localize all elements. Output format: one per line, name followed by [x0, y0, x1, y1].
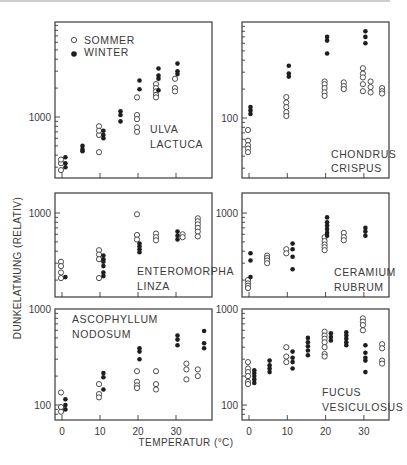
winter-point: [137, 78, 142, 83]
x-tick-label: 20: [320, 426, 332, 437]
winter-point: [175, 72, 180, 77]
panel-species-label: LINZA: [137, 280, 170, 292]
winter-point: [363, 29, 368, 34]
winter-point: [325, 233, 330, 238]
winter-point: [63, 407, 68, 412]
winter-point: [363, 351, 368, 356]
sommer-point: [284, 251, 289, 256]
x-tick-label: 10: [282, 426, 294, 437]
y-axis-label: DUNKELATMUNG (RELATIV): [12, 197, 23, 339]
winter-point: [363, 41, 368, 46]
sommer-point: [368, 79, 373, 84]
sommer-point: [153, 369, 158, 374]
winter-point: [101, 128, 106, 133]
winter-point: [267, 358, 272, 363]
winter-point: [63, 155, 68, 160]
winter-point: [325, 38, 330, 43]
sommer-point: [360, 75, 365, 80]
panel-species-label: ULVA: [150, 123, 178, 135]
sommer-point: [134, 237, 139, 242]
winter-point: [290, 356, 295, 361]
winter-point: [202, 329, 207, 334]
sommer-point: [265, 261, 270, 266]
legend-filled-marker: [71, 51, 77, 57]
winter-point: [175, 61, 180, 66]
winter-point: [63, 165, 68, 170]
winter-point: [290, 360, 295, 365]
legend: SOMMER WINTER: [71, 34, 135, 59]
winter-point: [101, 387, 106, 392]
winter-point: [363, 229, 368, 234]
sommer-point: [284, 95, 289, 100]
sommer-point: [58, 264, 63, 269]
panel-species-label: CRISPUS: [331, 162, 382, 174]
x-tick-label: 30: [170, 426, 182, 437]
winter-point: [363, 370, 368, 375]
legend-sommer-label: SOMMER: [84, 34, 135, 46]
sommer-point: [58, 157, 63, 162]
sommer-point: [153, 95, 158, 100]
sommer-point: [322, 354, 327, 359]
sommer-point: [58, 409, 63, 414]
winter-point: [175, 343, 180, 348]
winter-point: [202, 346, 207, 351]
sommer-point: [360, 328, 365, 333]
winter-point: [63, 403, 68, 408]
winter-point: [287, 74, 292, 79]
sommer-point: [322, 345, 327, 350]
winter-point: [248, 112, 253, 117]
winter-point: [363, 343, 368, 348]
winter-point: [101, 371, 106, 376]
winter-point: [248, 258, 253, 263]
sommer-point: [96, 150, 101, 155]
winter-point: [137, 357, 142, 362]
panel-species-label: LACTUCA: [150, 138, 203, 150]
winter-point: [287, 64, 292, 69]
winter-point: [325, 51, 330, 56]
y-tick-label: 100: [34, 400, 51, 411]
sommer-point: [380, 91, 385, 96]
panel-chondrus: 100CHONDRUSCRISPUS: [221, 22, 396, 178]
winter-point: [290, 247, 295, 252]
winter-point: [156, 77, 161, 82]
sommer-point: [245, 374, 250, 379]
winter-point: [344, 343, 349, 348]
x-axis-label: TEMPERATUR (°C): [139, 437, 234, 448]
panel-species-label: ENTEROMORPHA: [137, 265, 234, 277]
winter-point: [175, 337, 180, 342]
panel-species-label: RUBRUM: [334, 281, 384, 293]
winter-point: [290, 241, 295, 246]
x-tick-label: 0: [59, 426, 65, 437]
sommer-point: [360, 66, 365, 71]
winter-point: [306, 353, 311, 358]
winter-point: [306, 348, 311, 353]
sommer-point: [195, 234, 200, 239]
sommer-point: [195, 374, 200, 379]
sommer-point: [284, 354, 289, 359]
sommer-point: [96, 395, 101, 400]
winter-point: [175, 333, 180, 338]
winter-point: [118, 113, 123, 118]
winter-point: [101, 264, 106, 269]
winter-point: [175, 237, 180, 242]
winter-point: [101, 136, 106, 141]
sommer-point: [245, 286, 250, 291]
sommer-point: [96, 382, 101, 387]
sommer-point: [360, 323, 365, 328]
sommer-point: [195, 367, 200, 372]
sommer-point: [134, 117, 139, 122]
winter-point: [137, 349, 142, 354]
sommer-point: [153, 238, 158, 243]
winter-point: [363, 233, 368, 238]
y-tick-label: 1000: [216, 208, 239, 219]
sommer-point: [184, 367, 189, 372]
panel-species-label: NODOSUM: [72, 328, 131, 340]
sommer-point: [180, 235, 185, 240]
x-tick-label: 0: [246, 426, 252, 437]
sommer-point: [380, 346, 385, 351]
sommer-point: [184, 377, 189, 382]
sommer-point: [134, 212, 139, 217]
sommer-point: [184, 361, 189, 366]
sommer-point: [284, 345, 289, 350]
sommer-point: [58, 168, 63, 173]
